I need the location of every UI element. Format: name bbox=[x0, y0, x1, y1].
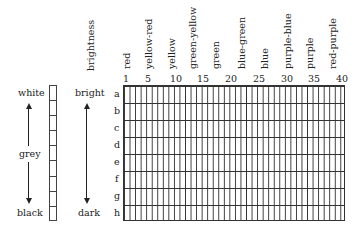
hue-label: red bbox=[121, 53, 132, 69]
column-number: 35 bbox=[308, 74, 320, 84]
grey-label: grey bbox=[19, 149, 41, 159]
row-label: b bbox=[114, 106, 120, 116]
column-number: 10 bbox=[170, 74, 182, 84]
hue-label: blue bbox=[259, 48, 270, 69]
row-label: c bbox=[114, 123, 119, 133]
hue-label: blue-green bbox=[236, 17, 247, 69]
row-label: h bbox=[114, 208, 120, 218]
black-label: black bbox=[17, 208, 43, 218]
arrow-up-icon bbox=[26, 103, 32, 109]
grey-scale-bar bbox=[49, 85, 57, 221]
arrow-line bbox=[28, 162, 29, 198]
hue-label: green-yellow bbox=[187, 7, 198, 69]
row-label: f bbox=[115, 174, 119, 184]
arrow-line bbox=[28, 108, 29, 146]
hue-label: purple bbox=[304, 38, 315, 69]
hue-label: yellow bbox=[166, 38, 177, 69]
arrow-line bbox=[86, 108, 87, 198]
column-number: 1 bbox=[123, 74, 129, 84]
column-number: 30 bbox=[281, 74, 293, 84]
arrow-down-icon bbox=[26, 198, 32, 204]
hue-label: red-purple bbox=[327, 18, 338, 69]
hue-label: green bbox=[210, 41, 221, 69]
hue-brightness-grid bbox=[123, 85, 345, 221]
hue-label: purple-blue bbox=[282, 13, 293, 69]
arrow-up-icon bbox=[84, 103, 90, 109]
row-label: g bbox=[114, 191, 120, 201]
bright-label: bright bbox=[75, 88, 105, 98]
column-number: 25 bbox=[253, 74, 265, 84]
hue-brightness-diagram: white grey black brightness bright dark … bbox=[0, 0, 361, 231]
row-label: d bbox=[114, 140, 120, 150]
white-label: white bbox=[18, 88, 45, 98]
arrow-down-icon bbox=[84, 198, 90, 204]
hue-label: yellow-red bbox=[143, 19, 154, 69]
brightness-axis-label: brightness bbox=[85, 20, 96, 71]
column-number: 40 bbox=[336, 74, 348, 84]
column-number: 15 bbox=[197, 74, 209, 84]
column-number: 20 bbox=[225, 74, 237, 84]
row-label: e bbox=[114, 157, 120, 167]
dark-label: dark bbox=[78, 208, 100, 218]
column-number: 5 bbox=[145, 74, 151, 84]
row-label: a bbox=[114, 89, 120, 99]
